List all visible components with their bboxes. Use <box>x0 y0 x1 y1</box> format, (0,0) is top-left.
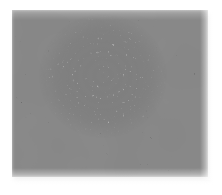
panel-top-sheen <box>12 10 208 20</box>
noise-texture-svg <box>12 10 208 177</box>
image-viewport <box>0 0 222 195</box>
texture-panel <box>12 10 208 177</box>
bright-ellipse-region <box>12 10 208 177</box>
